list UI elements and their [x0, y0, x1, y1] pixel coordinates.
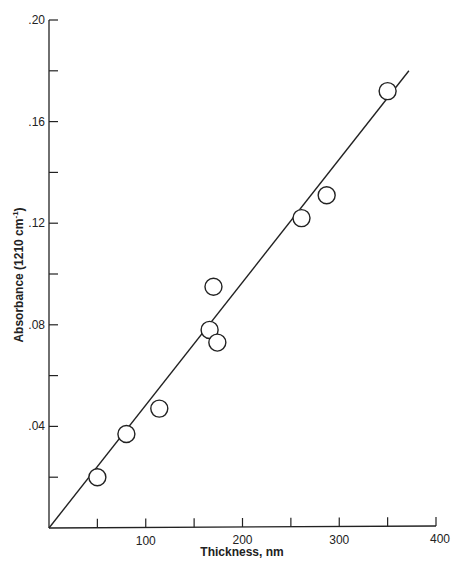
data-point — [205, 278, 222, 295]
y-axis-title: Absorbance (1210 cm-1) — [11, 207, 26, 342]
x-tick-label: 300 — [329, 533, 349, 547]
data-points — [89, 83, 396, 486]
y-tick-label: .20 — [28, 13, 45, 27]
data-point — [318, 187, 335, 204]
y-tick-label: .08 — [28, 318, 45, 332]
data-point — [118, 426, 135, 443]
data-point — [293, 210, 310, 227]
data-point — [209, 334, 226, 351]
y-tick-label: .16 — [28, 115, 45, 129]
y-tick-label: .12 — [28, 216, 45, 230]
scatter-chart: .04.08.12.16.20100200300400 Thickness, n… — [0, 0, 454, 570]
data-point — [379, 83, 396, 100]
regression-line — [49, 71, 409, 528]
x-axis-title: Thickness, nm — [200, 545, 283, 559]
fit-line — [49, 71, 409, 528]
x-tick-label: 400 — [430, 532, 450, 546]
y-tick-label: .04 — [28, 419, 45, 433]
x-tick-label: 100 — [136, 534, 156, 548]
data-point — [89, 469, 106, 486]
data-point — [151, 400, 168, 417]
